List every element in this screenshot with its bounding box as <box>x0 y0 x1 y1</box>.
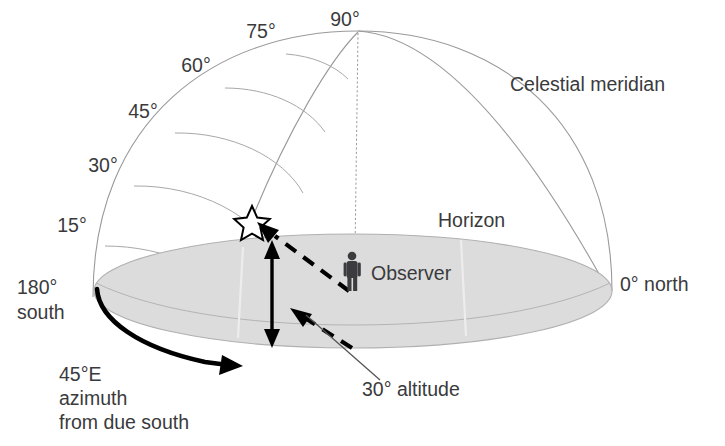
celestial-sphere-diagram: 15° 30° 45° 60° 75° 90° Celestial meridi… <box>0 0 725 446</box>
azimuth-caption-line2: azimuth <box>59 387 127 409</box>
altitude-label-75: 75° <box>246 20 276 42</box>
horizon-label: Horizon <box>438 209 505 231</box>
zenith-plumb-line <box>355 33 358 253</box>
azimuth-caption-line3: from due south <box>59 411 189 433</box>
altitude-label-15: 15° <box>57 214 87 236</box>
south-word-label: south <box>17 301 65 323</box>
altitude-parallel-75 <box>286 54 348 79</box>
horizon-plane <box>94 234 612 348</box>
north-label: 0° north <box>620 273 689 295</box>
observer-label: Observer <box>371 262 452 284</box>
altitude-label-45: 45° <box>128 100 158 122</box>
azimuth-sweep-arrowhead <box>219 355 243 375</box>
altitude-label-30: 30° <box>88 154 118 176</box>
celestial-meridian-label: Celestial meridian <box>510 73 665 95</box>
altitude-parallel-45 <box>175 133 303 193</box>
altitude-callout-label: 30° altitude <box>362 378 460 400</box>
azimuth-caption-line1: 45°E <box>59 363 102 385</box>
diagram-canvas: 15° 30° 45° 60° 75° 90° Celestial meridi… <box>0 0 725 446</box>
altitude-parallel-60 <box>225 88 325 132</box>
south-degree-label: 180° <box>17 276 57 298</box>
altitude-label-60: 60° <box>181 54 211 76</box>
altitude-label-90: 90° <box>330 8 360 30</box>
